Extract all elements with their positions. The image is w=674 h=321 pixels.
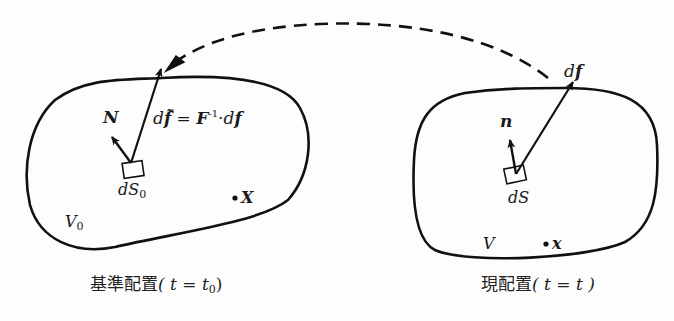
reference-force-equation: df̃ = F-1·df: [153, 109, 242, 127]
reference-area-element: [122, 161, 144, 179]
reference-area-label: dS0: [118, 182, 146, 200]
reference-volume-label: V0: [65, 214, 84, 232]
mapping-arrow: [170, 23, 548, 78]
current-normal-label: n: [500, 113, 512, 130]
reference-normal-label: N: [103, 109, 119, 126]
current-configuration-caption: 現配置( t = t ): [481, 276, 595, 293]
current-force-label: df: [564, 63, 582, 80]
current-area-label: dS: [508, 190, 529, 206]
reference-configuration-caption: 基準配置( t = t0): [90, 276, 222, 295]
current-point-dot: [543, 241, 548, 246]
current-volume-label: V: [483, 236, 495, 252]
reference-normal-arrow: [112, 137, 131, 163]
current-body-outline: [413, 88, 657, 258]
reference-point-label: X: [241, 190, 253, 206]
diagram-graphics: [0, 0, 674, 321]
reference-point-dot: [232, 195, 237, 200]
configuration-diagram: N df̃ = F-1·df dS0 X V0 df n dS V x 基準配置…: [0, 0, 674, 321]
current-point-label: x: [552, 236, 562, 252]
current-force-arrow: [516, 82, 573, 174]
